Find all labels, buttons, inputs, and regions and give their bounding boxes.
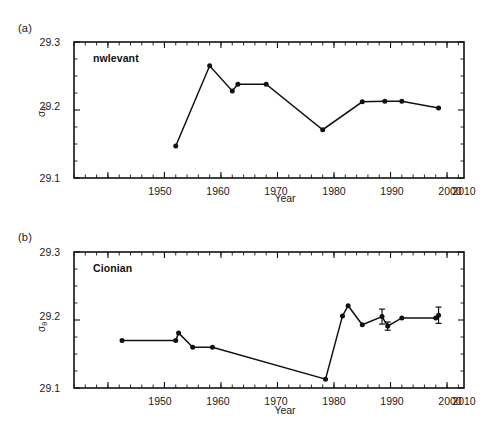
- data-point-marker: [436, 105, 441, 110]
- data-point-marker: [320, 127, 325, 132]
- data-point-marker: [120, 338, 125, 343]
- data-point-marker: [340, 313, 345, 318]
- axes-frame: [74, 252, 464, 388]
- figure-container: (a) nwlevant σθ 29.3 29.2 29.1 1950 1960…: [0, 0, 499, 429]
- panel-a: (a) nwlevant σθ 29.3 29.2 29.1 1950 1960…: [0, 0, 499, 215]
- data-point-marker: [399, 99, 404, 104]
- data-point-marker: [210, 345, 215, 350]
- data-series-line: [176, 66, 439, 146]
- panel-b-plot: [0, 215, 499, 429]
- data-point-marker: [399, 315, 404, 320]
- data-point-marker: [264, 82, 269, 87]
- data-point-marker: [190, 345, 195, 350]
- data-point-marker: [346, 303, 351, 308]
- data-point-marker: [385, 324, 390, 329]
- data-point-marker: [436, 313, 441, 318]
- data-series-line: [122, 306, 439, 379]
- data-point-marker: [173, 144, 178, 149]
- panel-b: (b) Cionian σθ 29.3 29.2 29.1 1950 1960 …: [0, 215, 499, 429]
- data-point-marker: [176, 330, 181, 335]
- data-point-marker: [380, 314, 385, 319]
- data-point-marker: [230, 88, 235, 93]
- data-point-marker: [207, 63, 212, 68]
- data-point-marker: [382, 99, 387, 104]
- data-point-marker: [235, 82, 240, 87]
- data-point-marker: [360, 322, 365, 327]
- data-point-marker: [360, 99, 365, 104]
- panel-a-plot: [0, 0, 499, 215]
- data-point-marker: [173, 338, 178, 343]
- data-point-marker: [323, 377, 328, 382]
- axes-frame: [74, 42, 464, 178]
